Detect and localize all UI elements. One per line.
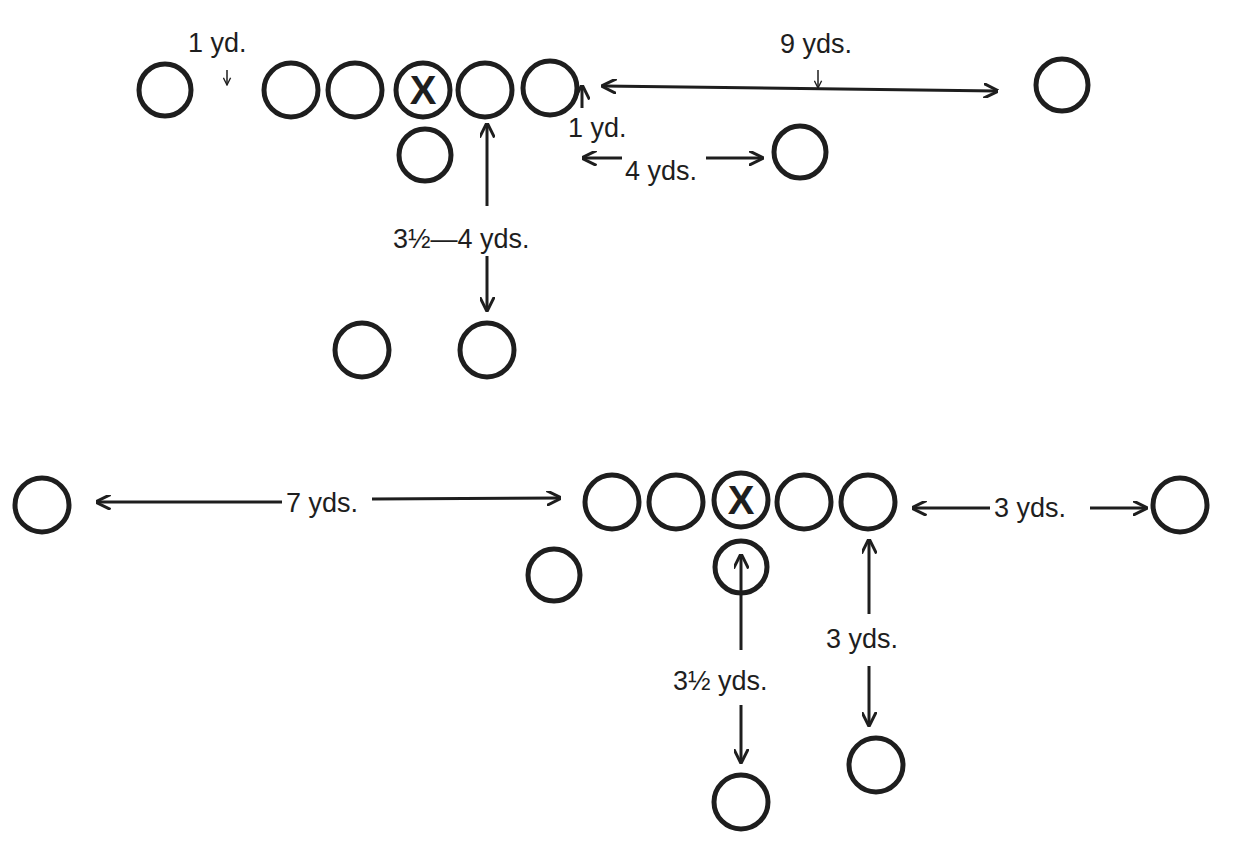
player-halfback bbox=[849, 738, 903, 792]
bottom-formation: X 7 yds. 3 yds. 3½ yds. 3 yds. bbox=[15, 473, 1207, 829]
center-x-marker: X bbox=[728, 478, 755, 522]
player-quarterback bbox=[399, 129, 451, 181]
player-right-guard bbox=[777, 475, 831, 529]
player-left-end bbox=[139, 64, 191, 116]
label-split-end-left: 7 yds. bbox=[286, 488, 358, 518]
label-split-end-right: 9 yds. bbox=[780, 29, 852, 59]
player-tailback bbox=[714, 775, 768, 829]
label-backfield-depth: 3½—4 yds. bbox=[393, 224, 530, 254]
formation-diagram: X 1 yd. 9 yds. 1 yd. 4 yds. 3½—4 yds. X bbox=[0, 0, 1235, 852]
label-wing-depth: 1 yd. bbox=[568, 113, 627, 143]
player-split-end bbox=[1036, 59, 1088, 111]
player-flanker-right bbox=[1153, 478, 1207, 532]
player-split-end-left bbox=[15, 478, 69, 532]
player-right-tackle bbox=[841, 475, 895, 529]
player-left-guard bbox=[328, 63, 382, 117]
label-halfback-depth: 3 yds. bbox=[826, 624, 898, 654]
label-wing-width: 4 yds. bbox=[625, 156, 697, 186]
label-tailback-depth: 3½ yds. bbox=[673, 666, 768, 696]
top-formation: X 1 yd. 9 yds. 1 yd. 4 yds. 3½—4 yds. bbox=[139, 28, 1088, 377]
label-flanker-right: 3 yds. bbox=[994, 493, 1066, 523]
arrow-7yds-right bbox=[372, 498, 560, 499]
player-left-tackle bbox=[585, 475, 639, 529]
player-fullback bbox=[460, 323, 514, 377]
player-left-tackle bbox=[264, 63, 318, 117]
arrow-9yds bbox=[603, 86, 997, 91]
player-right-guard bbox=[458, 63, 512, 117]
player-left-guard bbox=[649, 475, 703, 529]
player-right-tackle bbox=[523, 61, 577, 115]
player-slotback bbox=[528, 549, 580, 601]
label-split-left: 1 yd. bbox=[188, 28, 247, 58]
center-x-marker: X bbox=[410, 68, 437, 112]
player-left-halfback bbox=[335, 323, 389, 377]
player-wingback bbox=[774, 126, 826, 178]
